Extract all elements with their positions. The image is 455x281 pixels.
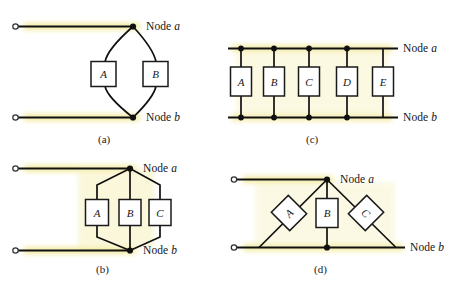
circuit-figure: Node a Node b A B (a) Node a Node b A B … (0, 0, 455, 281)
panel-b-node-b-label: Node b (143, 244, 177, 256)
panel-b-graphics (13, 165, 171, 254)
panel-c-junction-top-2 (271, 46, 277, 52)
panel-b-node-b-dot (127, 247, 133, 253)
panel-a-terminal-bottom (13, 115, 18, 120)
panel-d-terminal-bottom (231, 245, 236, 250)
panel-c-node-b-label: Node b (403, 111, 437, 123)
panel-c-junction-bottom-4 (344, 115, 350, 121)
panel-c-box-E-label: E (380, 76, 387, 88)
panel-b-box-B-label: B (127, 207, 134, 219)
panel-d-node-b-label: Node b (410, 241, 444, 253)
panel-b-node-a-label: Node a (143, 162, 177, 174)
panel-a-caption: (a) (98, 133, 110, 145)
panel-b-terminal-bottom (13, 248, 18, 253)
panel-a-box-B-label: B (152, 68, 159, 80)
panel-b-box-A-label: A (94, 207, 101, 219)
panel-c-junction-bottom-3 (306, 115, 312, 121)
panel-d-node-b-dot (324, 244, 330, 250)
panel-c-junction-top-3 (306, 46, 312, 52)
panel-d-node-a-label: Node a (340, 173, 374, 185)
panel-d-graphics (231, 176, 405, 251)
panel-d-box-B-label: B (324, 207, 331, 219)
panel-a-node-b-label: Node b (146, 111, 180, 123)
panel-c-box-D-label: D (343, 76, 351, 88)
panel-a-arc-left-lower (105, 86, 133, 118)
panel-c-junction-bottom-2 (271, 115, 277, 121)
panel-b-node-a-dot (127, 165, 133, 171)
panel-c-junction-bottom-1 (238, 115, 244, 121)
panel-c-box-B-label: B (271, 76, 278, 88)
panel-a-graphics (13, 23, 168, 121)
panel-a-highlight (24, 23, 140, 121)
panel-a-node-b-dot (130, 114, 136, 120)
panel-c-junction-top-1 (238, 46, 244, 52)
panel-b-box-C-label: C (156, 207, 163, 219)
panel-a-arc-left-upper (105, 27, 133, 63)
panel-c-box-C-label: C (305, 76, 312, 88)
panel-b-terminal-top (13, 166, 18, 171)
panel-a-node-a-label: Node a (146, 20, 180, 32)
panel-d-terminal-top (231, 177, 236, 182)
panel-a-node-a-dot (130, 23, 136, 29)
panel-a-box-A-label: A (100, 68, 107, 80)
panel-c-node-a-label: Node a (403, 42, 437, 54)
panel-a-terminal-top (13, 24, 18, 29)
panel-c-box-A-label: A (238, 76, 245, 88)
panel-c-graphics (228, 45, 398, 121)
panel-c-junction-top-4 (344, 46, 350, 52)
panel-c-caption: (c) (306, 133, 318, 145)
panel-b-caption: (b) (96, 263, 109, 275)
diagram-canvas (0, 0, 455, 281)
panel-d-caption: (d) (314, 263, 327, 275)
panel-d-node-a-dot (324, 176, 330, 182)
